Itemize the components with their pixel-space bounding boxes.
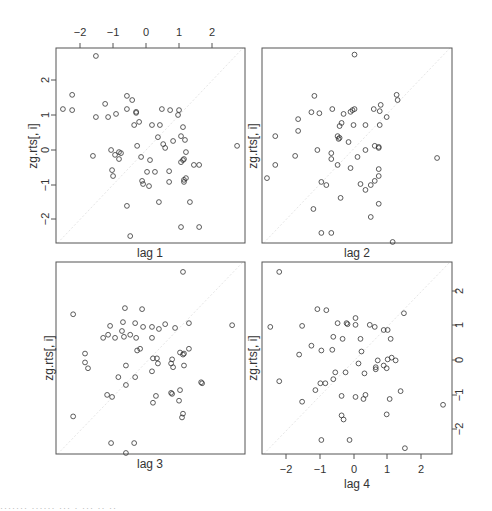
data-point [235,143,240,148]
data-point [83,351,88,356]
left-tick-label: 2 [39,77,51,83]
data-point [71,414,76,419]
data-point [71,312,76,317]
right-tick-label: 2 [453,288,465,294]
data-point [173,326,178,331]
data-point [329,157,334,162]
data-point [368,183,373,188]
data-point [61,107,66,112]
data-point [343,370,348,375]
bottom-tick-label: −2 [280,463,293,475]
data-point [265,176,270,181]
data-point [384,412,389,417]
data-point [197,163,202,168]
data-point [111,174,116,179]
bottom-tick-label: 0 [351,463,357,475]
data-point [398,389,403,394]
data-point [372,178,377,183]
data-point [181,125,186,130]
data-point [83,360,88,365]
data-point [441,402,446,407]
panel-frame [262,48,452,243]
right-tick-label: −2 [453,423,465,436]
top-tick-label: −2 [74,26,87,38]
data-point [367,322,372,327]
data-point [94,115,99,120]
data-point [187,321,192,326]
data-point [151,400,156,405]
data-point [356,361,361,366]
data-point [70,92,75,97]
data-point [200,381,205,386]
data-point [140,178,145,183]
data-point [394,92,399,97]
bottom-tick-label: −1 [314,463,327,475]
panel-ylabel: zg.rts[, i] [42,335,56,380]
data-point [150,123,155,128]
data-point [403,446,408,451]
data-point [375,358,380,363]
data-point [154,394,159,399]
data-point [317,111,322,116]
data-point [344,321,349,326]
data-point [348,166,353,171]
data-point [393,358,398,363]
data-point [105,392,110,397]
clipped-caption: ······· ······ ··· · ··· ·· ·· [0,503,300,511]
data-point [150,325,155,330]
left-tick-label: 0 [39,147,51,153]
data-point [188,200,193,205]
data-point [183,138,188,143]
data-point [347,438,352,443]
data-point [113,335,118,340]
data-point [388,336,393,341]
data-point [376,174,381,179]
data-point [319,438,324,443]
data-point [384,115,389,120]
data-point [335,163,340,168]
data-point [378,103,383,108]
data-point [312,93,317,98]
data-point [358,336,363,341]
right-tick-label: 0 [453,357,465,363]
data-point [362,371,367,376]
data-point [355,155,360,160]
data-point [179,134,184,139]
data-point [137,120,142,125]
data-point [402,311,407,316]
data-point [297,352,302,357]
data-point [230,323,235,328]
data-point [103,101,108,106]
data-point [110,395,115,400]
data-point [128,332,133,337]
data-point [145,169,150,174]
data-point [341,112,346,117]
data-point [130,98,135,103]
data-point [191,163,196,168]
data-point [277,379,282,384]
panel-lag-2 [262,48,452,244]
bottom-tick-label: 1 [384,463,390,475]
data-point [171,139,176,144]
data-point [184,150,189,155]
data-point [167,169,172,174]
data-point [113,152,118,157]
data-point [309,343,314,348]
data-point [177,398,182,403]
data-point [353,395,358,400]
data-point [140,307,145,312]
panel-frame [56,48,245,243]
data-point [296,129,301,134]
data-point [368,215,373,220]
data-point [124,383,129,388]
data-point [331,334,336,339]
reference-diagonal [264,262,450,454]
right-tick-label: 1 [453,322,465,328]
data-point [324,308,329,313]
data-point [122,334,127,339]
data-point [153,169,158,174]
data-point [141,182,146,187]
data-point [340,336,345,341]
data-point [128,234,133,239]
data-point [124,451,129,456]
